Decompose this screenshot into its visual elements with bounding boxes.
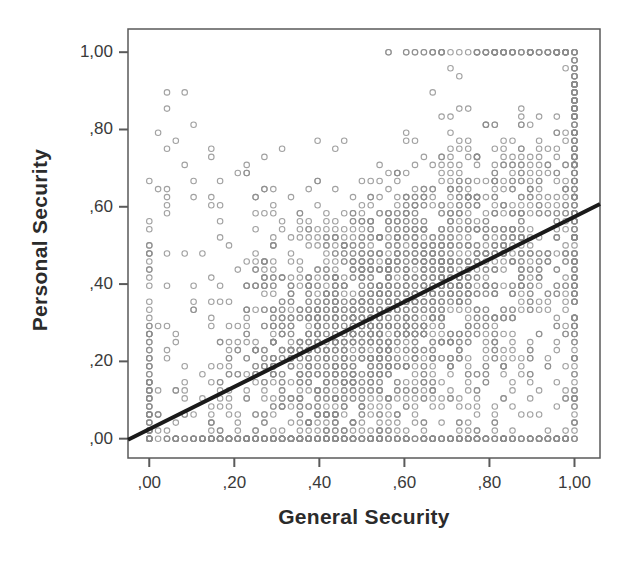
- scatter-point: [324, 323, 330, 329]
- scatter-point: [386, 396, 392, 402]
- scatter-point: [501, 146, 507, 152]
- scatter-point: [421, 428, 427, 434]
- scatter-point: [324, 331, 330, 337]
- scatter-point: [182, 388, 188, 394]
- scatter-point: [306, 436, 312, 442]
- scatter-point: [492, 315, 498, 321]
- scatter-point: [271, 243, 277, 249]
- scatter-point: [439, 154, 445, 160]
- scatter-point: [315, 372, 321, 378]
- scatter-point: [341, 428, 347, 434]
- scatter-point: [209, 363, 215, 369]
- scatter-point: [350, 275, 356, 281]
- scatter-point: [253, 412, 259, 418]
- scatter-point: [350, 307, 356, 313]
- scatter-point: [412, 210, 418, 216]
- scatter-point: [457, 106, 463, 112]
- scatter-point: [315, 331, 321, 337]
- scatter-point: [333, 323, 339, 329]
- scatter-point: [510, 178, 516, 184]
- scatter-point: [253, 380, 259, 386]
- scatter-point: [395, 347, 401, 353]
- scatter-point: [395, 259, 401, 265]
- scatter-point: [147, 372, 153, 378]
- scatter-point: [421, 380, 427, 386]
- scatter-point: [448, 307, 454, 313]
- scatter-point: [147, 404, 153, 410]
- scatter-point: [536, 114, 542, 120]
- scatter-point: [519, 49, 525, 55]
- scatter-point: [483, 436, 489, 442]
- scatter-point: [377, 323, 383, 329]
- scatter-point: [519, 291, 525, 297]
- scatter-point: [359, 283, 365, 289]
- scatter-point: [572, 90, 578, 96]
- scatter-point: [457, 162, 463, 168]
- scatter-point: [448, 227, 454, 233]
- scatter-point: [386, 267, 392, 273]
- scatter-point: [492, 420, 498, 426]
- scatter-point: [403, 202, 409, 208]
- scatter-point: [421, 235, 427, 241]
- scatter-point: [341, 235, 347, 241]
- scatter-point: [403, 194, 409, 200]
- scatter-point: [306, 227, 312, 233]
- scatter-point: [430, 194, 436, 200]
- scatter-point: [510, 291, 516, 297]
- scatter-point: [147, 299, 153, 305]
- scatter-point: [271, 267, 277, 273]
- scatter-point: [209, 194, 215, 200]
- scatter-point: [465, 106, 471, 112]
- scatter-point: [315, 355, 321, 361]
- scatter-point: [448, 291, 454, 297]
- scatter-point: [315, 307, 321, 313]
- scatter-point: [527, 436, 533, 442]
- scatter-point: [563, 388, 569, 394]
- scatter-point: [465, 243, 471, 249]
- scatter-point: [448, 162, 454, 168]
- scatter-point: [510, 210, 516, 216]
- scatter-point: [235, 170, 241, 176]
- scatter-point: [315, 404, 321, 410]
- scatter-point: [421, 49, 427, 55]
- scatter-point: [474, 331, 480, 337]
- scatter-point: [386, 404, 392, 410]
- scatter-point: [572, 380, 578, 386]
- scatter-point: [253, 363, 259, 369]
- scatter-point: [412, 267, 418, 273]
- scatter-point: [412, 404, 418, 410]
- scatter-point: [536, 194, 542, 200]
- scatter-point: [306, 372, 312, 378]
- scatter-point: [403, 396, 409, 402]
- scatter-point: [527, 251, 533, 257]
- scatter-point: [501, 138, 507, 144]
- scatter-point: [182, 363, 188, 369]
- scatter-point: [527, 339, 533, 345]
- scatter-point: [262, 283, 268, 289]
- scatter-point: [563, 202, 569, 208]
- scatter-point: [147, 323, 153, 329]
- scatter-point: [253, 210, 259, 216]
- scatter-point: [271, 315, 277, 321]
- scatter-point: [368, 202, 374, 208]
- scatter-point: [474, 388, 480, 394]
- scatter-point: [554, 202, 560, 208]
- scatter-point: [315, 243, 321, 249]
- scatter-point: [492, 146, 498, 152]
- scatter-point: [412, 138, 418, 144]
- scatter-point: [324, 347, 330, 353]
- scatter-point: [262, 267, 268, 273]
- scatter-point: [359, 243, 365, 249]
- scatter-point: [572, 315, 578, 321]
- scatter-point: [271, 275, 277, 281]
- scatter-point: [536, 154, 542, 160]
- scatter-point: [501, 307, 507, 313]
- scatter-point: [341, 315, 347, 321]
- scatter-point: [474, 436, 480, 442]
- scatter-point: [341, 138, 347, 144]
- scatter-point: [474, 243, 480, 249]
- scatter-point: [465, 404, 471, 410]
- scatter-point: [271, 396, 277, 402]
- scatter-point: [412, 436, 418, 442]
- scatter-point: [297, 436, 303, 442]
